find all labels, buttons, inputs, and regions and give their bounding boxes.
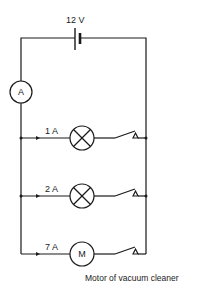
circuit-diagram: 12 V A 1 A 2 A	[0, 0, 201, 290]
current-arrow-icon	[36, 194, 40, 198]
current-arrow-icon	[36, 136, 40, 140]
ammeter-icon: A	[10, 81, 32, 103]
ammeter-symbol: A	[18, 87, 24, 97]
motor-icon: M	[70, 242, 94, 266]
motor-symbol: M	[78, 249, 86, 259]
motor-caption: Motor of vacuum cleaner	[85, 273, 179, 283]
branch-3-current-label: 7 A	[45, 242, 58, 252]
current-arrow-icon	[36, 252, 40, 256]
supply-voltage-label: 12 V	[66, 15, 85, 25]
junction-dot-icon	[145, 195, 148, 198]
lamp-icon	[70, 184, 94, 208]
junction-dot-icon	[20, 195, 23, 198]
branch-1: 1 A	[20, 126, 148, 150]
open-switch-icon	[115, 247, 138, 254]
lamp-icon	[70, 126, 94, 150]
junction-dot-icon	[145, 137, 148, 140]
junction-dot-icon	[20, 137, 23, 140]
battery-icon	[75, 28, 80, 50]
branch-3: 7 A M	[21, 242, 146, 266]
open-switch-icon	[115, 189, 138, 196]
branch-2-current-label: 2 A	[45, 184, 58, 194]
open-switch-icon	[115, 131, 138, 138]
branch-2: 2 A	[20, 184, 148, 208]
branch-1-current-label: 1 A	[45, 126, 58, 136]
